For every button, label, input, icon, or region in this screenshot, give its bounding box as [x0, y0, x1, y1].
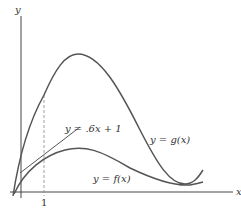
- tangent-label: y = .6x + 1: [65, 123, 122, 134]
- x-axis-label: x: [236, 186, 241, 197]
- g-label: y = g(x): [150, 134, 190, 145]
- f-label: y = f(x): [93, 173, 131, 184]
- curve-f: [14, 148, 203, 194]
- y-axis-label: y: [15, 4, 21, 15]
- tick-label-1: 1: [41, 197, 47, 208]
